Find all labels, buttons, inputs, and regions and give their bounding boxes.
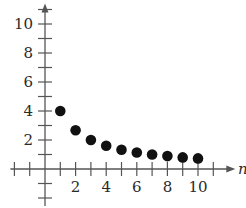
x-tick-label: 8 [163, 178, 173, 196]
data-point [101, 141, 112, 152]
x-axis-label: n [238, 160, 246, 178]
x-tick-label: 2 [71, 178, 81, 196]
y-tick-label: 6 [23, 73, 33, 91]
data-point [70, 125, 81, 136]
y-tick-label: 4 [23, 102, 33, 120]
x-tick-label: 10 [188, 178, 207, 196]
y-tick-label: 8 [23, 44, 33, 62]
x-axis-arrow-icon [226, 166, 235, 173]
y-tick-label: 10 [14, 15, 33, 33]
y-tick-label: 2 [23, 131, 33, 149]
x-tick-label: 4 [101, 178, 111, 196]
data-point [193, 153, 204, 164]
data-point [55, 106, 66, 117]
data-point [147, 149, 158, 160]
scatter-chart: 246810246810n [0, 0, 246, 208]
data-point [132, 147, 143, 158]
y-axis-arrow-icon [42, 4, 49, 13]
x-tick-label: 6 [132, 178, 142, 196]
data-point [116, 144, 127, 155]
data-point [162, 151, 173, 162]
data-point [177, 152, 188, 163]
data-point [86, 135, 97, 146]
